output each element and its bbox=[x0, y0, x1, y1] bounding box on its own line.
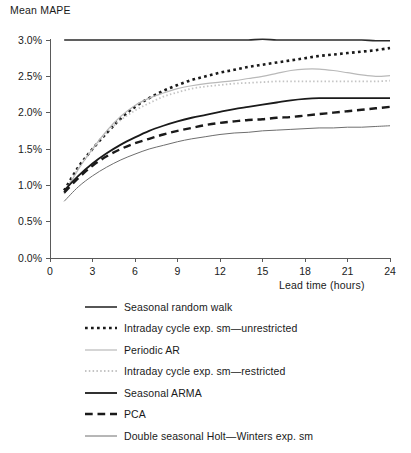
legend-swatch-icon bbox=[84, 408, 118, 420]
y-axis-ticks: 0.0%0.5%1.0%1.5%2.0%2.5%3.0% bbox=[18, 34, 50, 264]
series-line-4 bbox=[64, 98, 390, 190]
x-axis-title: Lead time (hours) bbox=[279, 279, 365, 291]
legend-item-label: Periodic AR bbox=[124, 344, 180, 356]
y-tick-label: 2.5% bbox=[18, 70, 42, 82]
x-tick-label: 3 bbox=[90, 265, 96, 277]
legend-swatch-icon bbox=[84, 344, 118, 356]
y-tick-label: 0.5% bbox=[18, 215, 42, 227]
legend-item[interactable]: Periodic AR bbox=[84, 339, 404, 361]
series-line-2 bbox=[64, 69, 390, 194]
legend-item[interactable]: Seasonal ARMA bbox=[84, 382, 404, 404]
x-tick-label: 6 bbox=[132, 265, 138, 277]
legend-swatch-icon bbox=[84, 301, 118, 313]
legend-item[interactable]: Seasonal random walk bbox=[84, 296, 404, 318]
legend-item[interactable]: PCA bbox=[84, 404, 404, 426]
y-tick-label: 1.5% bbox=[18, 143, 42, 155]
legend-swatch-icon bbox=[84, 322, 118, 334]
x-tick-label: 24 bbox=[384, 265, 396, 277]
y-tick-label: 3.0% bbox=[18, 34, 42, 46]
chart-legend: Seasonal random walkIntraday cycle exp. … bbox=[84, 296, 404, 447]
legend-item[interactable]: Intraday cycle exp. sm—restricted bbox=[84, 361, 404, 383]
y-tick-label: 1.0% bbox=[18, 179, 42, 191]
plot-area: 0.0%0.5%1.0%1.5%2.0%2.5%3.0%036912151821… bbox=[0, 0, 411, 290]
legend-item-label: Seasonal random walk bbox=[124, 301, 232, 313]
legend-item[interactable]: Double seasonal Holt—Winters exp. sm bbox=[84, 425, 404, 447]
x-axis-ticks: 03691215182124 bbox=[47, 258, 396, 277]
series-group bbox=[64, 39, 390, 201]
legend-swatch-icon bbox=[84, 387, 118, 399]
legend-item-label: PCA bbox=[124, 408, 146, 420]
x-tick-label: 0 bbox=[47, 265, 53, 277]
x-tick-label: 12 bbox=[214, 265, 226, 277]
legend-item[interactable]: Intraday cycle exp. sm—unrestricted bbox=[84, 318, 404, 340]
x-tick-label: 9 bbox=[175, 265, 181, 277]
y-tick-label: 2.0% bbox=[18, 106, 42, 118]
chart-figure: Mean MAPE 0.0%0.5%1.0%1.5%2.0%2.5%3.0%03… bbox=[0, 0, 411, 453]
series-line-6 bbox=[64, 126, 390, 202]
legend-swatch-icon bbox=[84, 430, 118, 442]
legend-item-label: Intraday cycle exp. sm—restricted bbox=[124, 365, 285, 377]
x-tick-label: 15 bbox=[257, 265, 269, 277]
series-line-1 bbox=[64, 48, 390, 190]
x-tick-label: 18 bbox=[299, 265, 311, 277]
legend-swatch-icon bbox=[84, 365, 118, 377]
legend-item-label: Seasonal ARMA bbox=[124, 387, 202, 399]
legend-item-label: Intraday cycle exp. sm—unrestricted bbox=[124, 322, 297, 334]
x-tick-label: 21 bbox=[342, 265, 354, 277]
legend-item-label: Double seasonal Holt—Winters exp. sm bbox=[124, 430, 313, 442]
y-tick-label: 0.0% bbox=[18, 252, 42, 264]
series-line-0 bbox=[64, 39, 390, 41]
